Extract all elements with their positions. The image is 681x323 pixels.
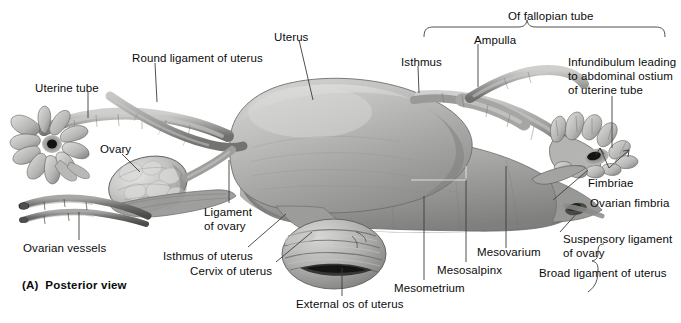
label-round-ligament-of-uterus: Round ligament of uterus bbox=[132, 51, 263, 65]
label-ovarian-fimbria: Ovarian fimbria bbox=[590, 196, 669, 210]
label-ovary: Ovary bbox=[100, 142, 131, 156]
label-ligament-of-ovary: Ligament of ovary bbox=[204, 205, 252, 233]
label-isthmus-of-uterus: Isthmus of uterus bbox=[163, 249, 253, 263]
label-suspensory-ligament-of-ovary: Suspensory ligament of ovary bbox=[563, 232, 672, 260]
figure-caption: (A) Posterior view bbox=[22, 278, 127, 292]
label-ovarian-vessels: Ovarian vessels bbox=[23, 241, 106, 255]
label-fimbriae: Fimbriae bbox=[588, 176, 634, 190]
label-of-fallopian-tube: Of fallopian tube bbox=[508, 9, 593, 23]
cervix-structure bbox=[282, 219, 386, 289]
label-mesosalpinx: Mesosalpinx bbox=[437, 263, 502, 277]
label-infundibulum: Infundibulum leading to abdominal ostium… bbox=[568, 55, 676, 97]
label-uterus: Uterus bbox=[274, 30, 308, 44]
label-mesovarium: Mesovarium bbox=[477, 245, 541, 259]
anatomy-figure: Uterine tube Round ligament of uterus Ut… bbox=[0, 0, 681, 323]
label-broad-ligament-of-uterus: Broad ligament of uterus bbox=[539, 266, 667, 280]
label-cervix-of-uterus: Cervix of uterus bbox=[190, 264, 272, 278]
label-ampulla: Ampulla bbox=[474, 33, 516, 47]
label-external-os-of-uterus: External os of uterus bbox=[296, 297, 404, 311]
label-uterine-tube: Uterine tube bbox=[35, 81, 99, 95]
label-isthmus: Isthmus bbox=[401, 55, 442, 69]
label-mesometrium: Mesometrium bbox=[394, 281, 465, 295]
